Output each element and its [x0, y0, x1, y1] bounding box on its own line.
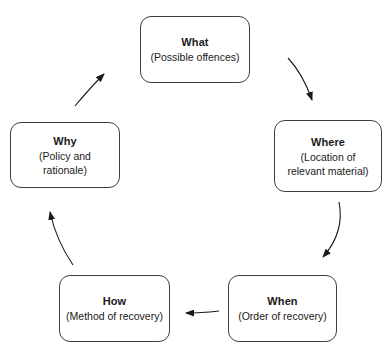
- node-why-title: Why: [53, 134, 77, 148]
- node-where-title: Where: [311, 135, 345, 149]
- arrow-where-to-when: [323, 202, 340, 257]
- node-when-title: When: [267, 294, 297, 308]
- node-how-subtitle: (Method of recovery): [60, 309, 169, 323]
- arrow-how-to-why: [50, 212, 73, 265]
- cycle-diagram: What (Possible offences) Where (Location…: [0, 0, 388, 354]
- node-what-subtitle: (Possible offences): [144, 50, 245, 64]
- node-when[interactable]: When (Order of recovery): [228, 275, 337, 342]
- node-where-subtitle: (Location of relevant material): [275, 150, 381, 178]
- node-why[interactable]: Why (Policy and rationale): [10, 122, 120, 188]
- arrow-why-to-what: [75, 74, 104, 106]
- arrow-when-to-how: [186, 311, 219, 313]
- node-when-subtitle: (Order of recovery): [232, 309, 333, 323]
- arrow-what-to-where: [288, 58, 312, 100]
- node-what-title: What: [181, 35, 208, 49]
- node-where[interactable]: Where (Location of relevant material): [274, 120, 382, 192]
- node-what[interactable]: What (Possible offences): [140, 16, 250, 83]
- node-why-subtitle: (Policy and rationale): [11, 149, 119, 177]
- node-how[interactable]: How (Method of recovery): [59, 275, 170, 342]
- node-how-title: How: [103, 294, 127, 308]
